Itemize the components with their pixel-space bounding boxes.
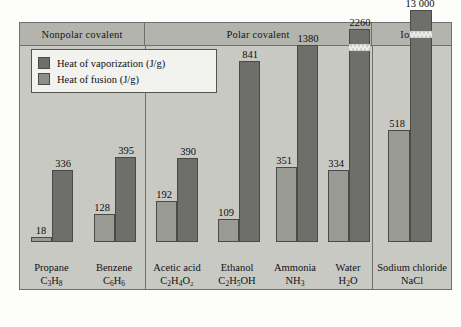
chart-legend: Heat of vaporization (J/g) Heat of fusio… [31,49,217,93]
bar-value-fusion: 518 [389,118,405,129]
bar-value-vaporization: 395 [118,145,134,156]
section-header-row: Nonpolar covalent Polar covalent Ionic [20,23,451,46]
compound-name: Benzene [96,262,132,273]
bar-value-vaporization: 1380 [298,33,319,44]
bar-value-vaporization: 336 [55,158,71,169]
section-header-nonpolar-covalent: Nonpolar covalent [20,23,145,46]
bar-fusion [31,237,52,242]
compound-formula: H2O [324,275,372,287]
group-caption: Acetic acid C2H4O₂ [146,262,208,287]
group-caption: Water H2O [324,262,372,287]
compound-formula: C6H6 [83,275,145,287]
group-caption: Sodium chloride NaCl [373,262,451,287]
group-caption: Propane C3H8 [20,262,83,287]
bar-group-water: 334 2260 Water H2O [324,46,372,289]
bar-vaporization [349,29,370,242]
bar-vaporization [410,10,432,242]
legend-swatch-icon [38,73,50,85]
chart-root: Nonpolar covalent Polar covalent Ionic 1… [0,0,461,327]
section-header-polar-covalent: Polar covalent [145,23,372,46]
bar-value-fusion: 192 [156,189,172,200]
compound-name: Propane [34,262,68,273]
group-caption: Benzene C6H6 [83,262,145,287]
axis-break-icon [349,44,370,51]
bar-fusion [94,214,115,242]
legend-label: Heat of vaporization (J/g) [57,58,165,69]
chart-frame: Nonpolar covalent Polar covalent Ionic 1… [19,22,452,290]
bar-vaporization [297,45,318,242]
bar-value-fusion: 351 [276,155,292,166]
compound-formula: NaCl [373,275,451,287]
compound-formula: C2H4O₂ [146,275,208,287]
bar-value-vaporization: 390 [180,146,196,157]
bar-value-fusion: 109 [218,207,234,218]
bar-vaporization [239,61,260,242]
compound-formula: NH3 [266,275,324,287]
bar-fusion [328,170,349,242]
compound-name: Sodium chloride [377,262,447,273]
bar-value-fusion: 18 [36,225,47,236]
bar-vaporization [52,170,73,242]
bar-value-vaporization: 2260 [350,17,371,28]
section-label: Polar covalent [226,29,289,40]
legend-label: Heat of fusion (J/g) [57,74,139,85]
bar-value-fusion: 128 [94,202,110,213]
legend-item-fusion: Heat of fusion (J/g) [38,71,209,87]
bar-vaporization [177,158,198,242]
bar-fusion [388,130,410,242]
bar-fusion [218,219,239,242]
axis-break-icon [410,31,432,38]
compound-name: Ethanol [221,262,254,273]
compound-name: Water [336,262,361,273]
bar-pair: 351 1380 [266,46,324,242]
compound-name: Acetic acid [153,262,201,273]
bar-group-sodium-chloride: 518 13 000 Sodium chloride NaCl [373,46,451,289]
bar-pair: 334 2260 [324,46,372,242]
bar-value-fusion: 334 [328,158,344,169]
legend-swatch-icon [38,57,50,69]
bar-fusion [276,167,297,242]
group-caption: Ammonia NH3 [266,262,324,287]
bar-fusion [156,201,177,242]
compound-name: Ammonia [274,262,316,273]
compound-formula: C2H5OH [208,275,266,287]
compound-formula: C3H8 [20,275,83,287]
bar-value-vaporization: 841 [242,49,258,60]
bar-vaporization [115,157,136,242]
bar-value-vaporization: 13 000 [406,0,435,9]
legend-item-vaporization: Heat of vaporization (J/g) [38,55,209,71]
bar-group-ammonia: 351 1380 Ammonia NH3 [266,46,324,289]
bar-pair: 518 13 000 [373,46,451,242]
section-label: Nonpolar covalent [41,29,122,40]
group-caption: Ethanol C2H5OH [208,262,266,287]
